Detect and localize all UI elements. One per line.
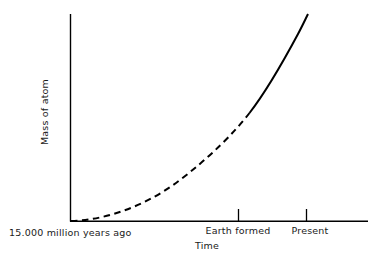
x-tick-label-present: Present [291, 226, 328, 236]
chart-plot-area [0, 0, 373, 260]
chart-figure: Mass of atom Time 15.000 million years a… [0, 0, 373, 260]
x-axis-label: Time [0, 241, 373, 251]
y-axis-label: Mass of atom [40, 62, 50, 162]
curve-solid-segment [250, 14, 309, 113]
x-tick-label-earth-formed: Earth formed [206, 226, 271, 236]
x-tick-label-origin: 15.000 million years ago [9, 228, 132, 238]
curve-dashed-segment [71, 113, 250, 221]
